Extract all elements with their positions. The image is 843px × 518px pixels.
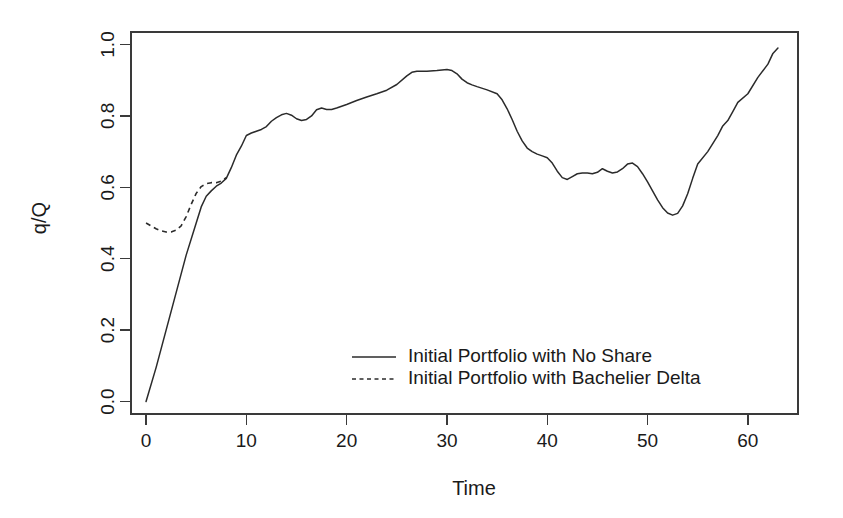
x-tick-label: 10 — [236, 430, 257, 451]
legend-label-1: Initial Portfolio with No Share — [408, 345, 652, 366]
y-tick-label: 0.4 — [97, 245, 118, 272]
y-tick-label: 0.6 — [97, 174, 118, 200]
x-tick-label: 50 — [637, 430, 658, 451]
x-tick-label: 60 — [737, 430, 758, 451]
line-chart: 0102030405060 0.00.20.40.60.81.0 Initial… — [0, 0, 843, 518]
y-tick-label: 0.2 — [97, 317, 118, 343]
x-axis-title: Time — [452, 477, 496, 499]
x-tick-label: 20 — [336, 430, 357, 451]
x-tick-label: 0 — [141, 430, 152, 451]
y-tick-label: 0.0 — [97, 388, 118, 414]
chart-figure: 0102030405060 0.00.20.40.60.81.0 Initial… — [0, 0, 843, 518]
legend-label-2: Initial Portfolio with Bachelier Delta — [408, 367, 701, 388]
x-tick-label: 40 — [537, 430, 558, 451]
y-axis-title: q/Q — [28, 202, 50, 234]
x-tick-label: 30 — [436, 430, 457, 451]
y-tick-label: 0.8 — [97, 103, 118, 129]
y-tick-label: 1.0 — [97, 31, 118, 57]
